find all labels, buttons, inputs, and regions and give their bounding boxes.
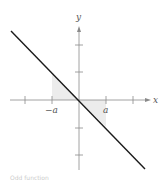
- tick-label-a: a: [103, 105, 108, 115]
- y-axis-label: y: [75, 12, 82, 22]
- odd-function-diagram: x y −a a Odd function: [0, 0, 165, 183]
- shaded-region-right: [79, 100, 106, 127]
- x-axis-arrow-icon: [145, 98, 151, 102]
- tick-label-neg-a: −a: [45, 105, 58, 115]
- y-axis-arrow-icon: [77, 26, 81, 32]
- caption: Odd function: [10, 174, 49, 181]
- x-axis-label: x: [153, 95, 158, 105]
